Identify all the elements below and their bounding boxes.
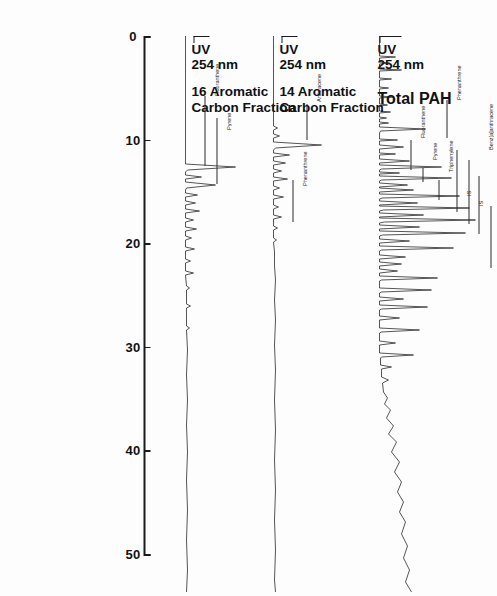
- peak-label: Triphenylene: [447, 140, 453, 172]
- panel-fraction-16: 16 Aromatic Carbon Fraction UV 254 nm Fl…: [151, 0, 241, 596]
- axis-tick-label: 10: [125, 132, 140, 147]
- axis-tick-label: 50: [125, 547, 140, 562]
- figure-canvas: Total PAH UV 254 nm Phenanthrene Fluoran…: [0, 0, 497, 596]
- peak-label: Phenanthrene: [301, 151, 307, 186]
- peak-label: Fluoranthene: [213, 64, 219, 96]
- axis-tick-label: 20: [125, 236, 140, 251]
- axis-tick-label: 0: [129, 29, 136, 44]
- scanned-page: Total PAH UV 254 nm Phenanthrene Fluoran…: [0, 0, 497, 596]
- peak-label: Pyrene: [225, 113, 231, 130]
- peak-label: Pyrene: [431, 143, 437, 160]
- peak-label: Benz[a]anthracene: [487, 104, 493, 150]
- axis-tick-label: 30: [125, 339, 140, 354]
- trace-fraction-16: [183, 0, 241, 596]
- peak-label: Anthracene: [315, 74, 321, 102]
- panel-spacer: [104, 0, 105, 596]
- peak-label: Fluoranthene: [419, 106, 425, 138]
- peak-label: Phenanthrene: [455, 65, 461, 100]
- axis-tick-label: 40: [125, 443, 140, 458]
- trace-total-pah: [377, 0, 497, 596]
- time-axis-left: 0 10 20 30 40 50: [111, 36, 145, 556]
